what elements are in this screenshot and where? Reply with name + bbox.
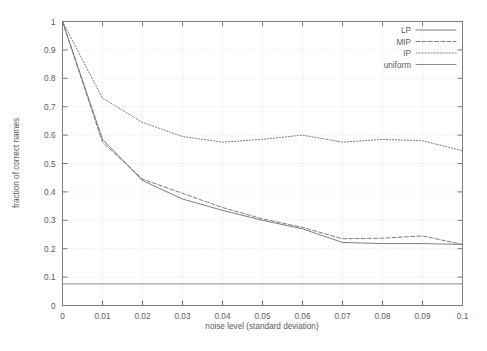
x-tick-label: 0.04 xyxy=(215,312,231,321)
x-tick-label: 0.05 xyxy=(255,312,271,321)
y-tick-label: 0.8 xyxy=(44,74,56,83)
y-tick-label: 0.7 xyxy=(44,103,56,112)
y-tick-label: 0.4 xyxy=(44,188,56,197)
y-axis-label: fraction of correct names xyxy=(12,118,21,208)
legend-label-mip: MIP xyxy=(396,38,411,47)
y-tick-label: 0.6 xyxy=(44,131,56,140)
x-tick-label: 0.1 xyxy=(457,312,469,321)
x-tick-label: 0.07 xyxy=(335,312,351,321)
x-tick-label: 0.06 xyxy=(295,312,311,321)
x-axis-tick-labels: 00.010.020.030.040.050.060.070.080.090.1 xyxy=(60,312,468,321)
y-axis-tick-labels: 00.10.20.30.40.50.60.70.80.91 xyxy=(44,18,56,311)
x-tick-label: 0.09 xyxy=(415,312,431,321)
y-tick-label: 0.3 xyxy=(44,216,56,225)
x-tick-label: 0.03 xyxy=(175,312,191,321)
y-tick-label: 0 xyxy=(51,302,56,311)
x-axis-label: noise level (standard deviation) xyxy=(205,322,319,331)
chart-legend: LPMIPIPuniform xyxy=(384,26,456,70)
chart-canvas: 00.010.020.030.040.050.060.070.080.090.1… xyxy=(0,0,487,351)
y-tick-label: 1 xyxy=(51,18,56,27)
x-tick-label: 0.02 xyxy=(135,312,151,321)
y-tick-label: 0.9 xyxy=(44,46,56,55)
chart-figure: 00.010.020.030.040.050.060.070.080.090.1… xyxy=(0,0,487,351)
legend-label-uniform: uniform xyxy=(384,61,411,70)
x-tick-label: 0 xyxy=(60,312,65,321)
x-tick-label: 0.08 xyxy=(375,312,391,321)
y-tick-label: 0.2 xyxy=(44,245,56,254)
y-tick-label: 0.5 xyxy=(44,160,56,169)
y-tick-label: 0.1 xyxy=(44,273,56,282)
x-tick-label: 0.01 xyxy=(95,312,111,321)
legend-label-ip: IP xyxy=(403,49,411,58)
legend-label-lp: LP xyxy=(401,26,412,35)
